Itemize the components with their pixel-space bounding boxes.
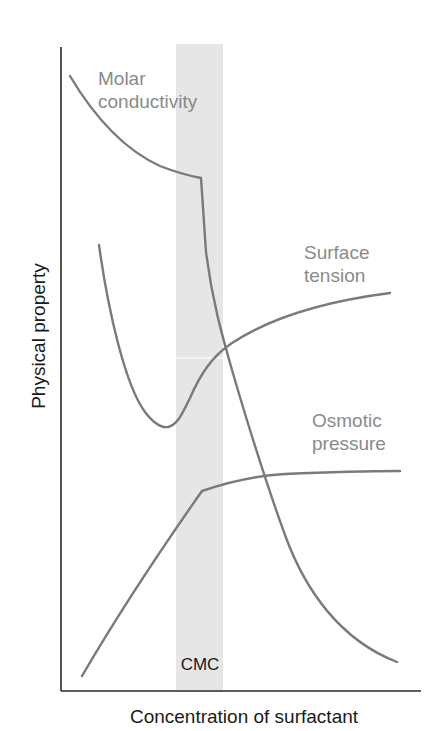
osmotic-pressure-label-line1: Osmotic [312, 410, 382, 431]
cmc-label: CMC [181, 655, 220, 674]
y-axis-title: Physical property [28, 263, 49, 409]
osmotic-pressure-label-line2: pressure [312, 433, 386, 454]
chart: Molar conductivity Surface tension Osmot… [0, 0, 441, 731]
osmotic-pressure-curve [82, 471, 400, 676]
molar-conductivity-label-line2: conductivity [98, 91, 198, 112]
molar-conductivity-curve [70, 76, 397, 662]
cmc-band [176, 44, 223, 691]
surface-tension-label-line2: tension [304, 265, 365, 286]
x-axis-title: Concentration of surfactant [130, 706, 359, 727]
molar-conductivity-label-line1: Molar [98, 68, 146, 89]
surface-tension-label-line1: Surface [304, 242, 369, 263]
